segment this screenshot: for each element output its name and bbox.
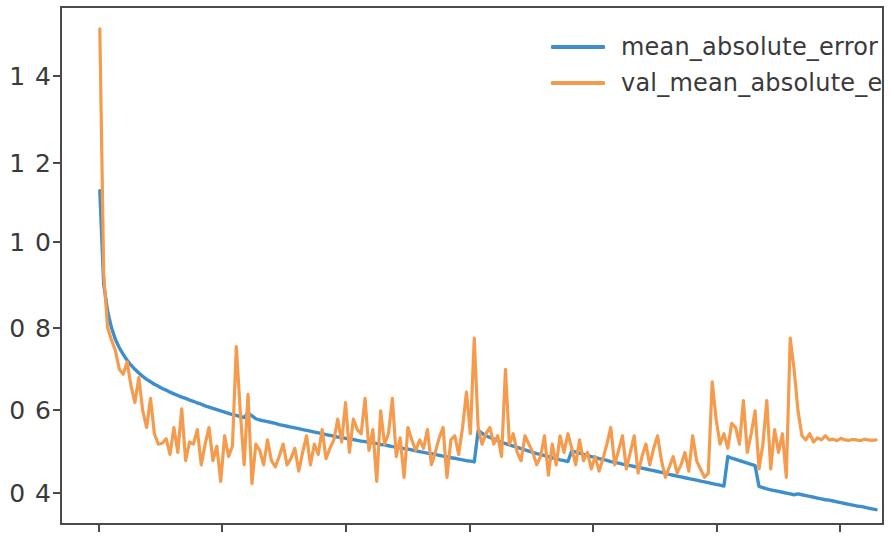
x-tick-mark (469, 525, 471, 532)
y-tick-mark (53, 162, 60, 164)
y-tick-label: 1 0 (0, 228, 52, 257)
y-tick-label: 0 8 (0, 314, 52, 343)
x-tick-mark (716, 525, 718, 532)
x-tick-mark (592, 525, 594, 532)
y-axis-tick-labels: 1 4 1 2 1 0 0 8 0 6 0 4 (0, 0, 52, 537)
legend-swatch-icon (551, 45, 605, 49)
legend-label: mean_absolute_error (621, 33, 878, 61)
legend-entry: val_mean_absolute_error (551, 68, 884, 98)
legend-entry: mean_absolute_error (551, 32, 884, 62)
y-tick-label: 1 4 (0, 62, 52, 91)
plot-area: mean_absolute_error val_mean_absolute_er… (60, 6, 884, 525)
legend-swatch-icon (551, 81, 605, 85)
y-tick-label: 0 6 (0, 396, 52, 425)
figure: 1 4 1 2 1 0 0 8 0 6 0 4 mean_absolute_er… (0, 0, 894, 537)
x-tick-mark (221, 525, 223, 532)
y-tick-mark (53, 409, 60, 411)
x-tick-mark (98, 525, 100, 532)
x-tick-mark (345, 525, 347, 532)
legend-label: val_mean_absolute_error (621, 69, 884, 97)
x-tick-mark (839, 525, 841, 532)
y-tick-mark (53, 327, 60, 329)
y-tick-mark (53, 492, 60, 494)
y-tick-mark (53, 75, 60, 77)
y-tick-label: 0 4 (0, 479, 52, 508)
y-tick-mark (53, 241, 60, 243)
legend: mean_absolute_error val_mean_absolute_er… (543, 28, 884, 102)
y-tick-label: 1 2 (0, 149, 52, 178)
